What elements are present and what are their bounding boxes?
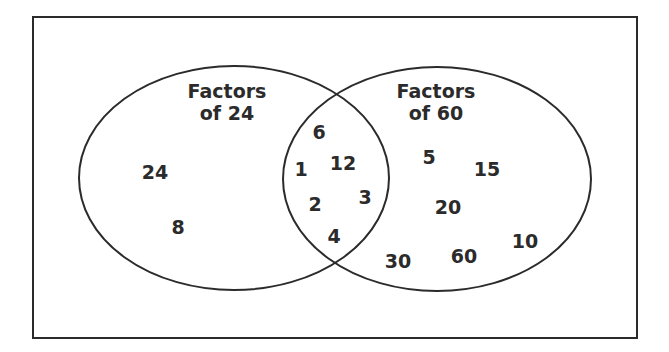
element-5: 5 bbox=[422, 148, 435, 167]
right-title-line2: of 60 bbox=[397, 102, 476, 124]
element-24: 24 bbox=[142, 163, 168, 182]
element-10: 10 bbox=[512, 232, 538, 251]
element-8: 8 bbox=[171, 218, 184, 237]
left-title-line2: of 24 bbox=[188, 102, 267, 124]
right-title-line1: Factors bbox=[397, 80, 476, 102]
element-12: 12 bbox=[330, 154, 356, 173]
left-set-title: Factors of 24 bbox=[188, 80, 267, 124]
element-1: 1 bbox=[294, 160, 307, 179]
universe-box bbox=[33, 17, 637, 338]
left-title-line1: Factors bbox=[188, 80, 267, 102]
element-60: 60 bbox=[451, 247, 477, 266]
element-3: 3 bbox=[358, 188, 371, 207]
element-6: 6 bbox=[312, 123, 325, 142]
element-4: 4 bbox=[327, 227, 340, 246]
element-2: 2 bbox=[308, 195, 321, 214]
venn-diagram bbox=[0, 0, 669, 352]
right-set-title: Factors of 60 bbox=[397, 80, 476, 124]
element-15: 15 bbox=[474, 160, 500, 179]
element-30: 30 bbox=[385, 252, 411, 271]
element-20: 20 bbox=[435, 198, 461, 217]
